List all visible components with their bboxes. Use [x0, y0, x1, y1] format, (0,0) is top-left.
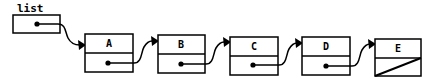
- node-a-value: A: [106, 38, 112, 49]
- node-d: D: [302, 37, 376, 75]
- linked-list-diagram: list A B C D: [0, 0, 434, 80]
- node-c: C: [230, 37, 303, 75]
- node-c-value: C: [251, 41, 257, 52]
- node-a: A: [85, 34, 159, 72]
- node-b: B: [158, 35, 231, 73]
- node-e-value: E: [395, 43, 401, 54]
- head-variable: list: [13, 2, 86, 50]
- node-b-value: B: [178, 39, 184, 50]
- node-d-value: D: [323, 41, 329, 52]
- node-e: E: [375, 39, 421, 76]
- head-variable-label: list: [17, 2, 44, 15]
